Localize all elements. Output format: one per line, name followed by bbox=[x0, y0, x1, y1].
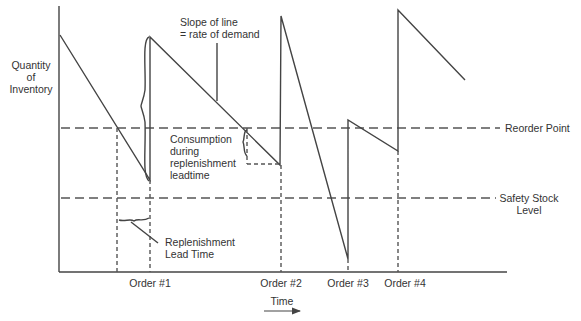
lead-time-annotation-line-1: Replenishment bbox=[165, 236, 235, 248]
order-4-label: Order #4 bbox=[384, 277, 426, 289]
y-axis-label-line-1: Quantity bbox=[11, 59, 51, 71]
lead-time-brace bbox=[119, 218, 149, 221]
consumption-annotation-line-4: leadtime bbox=[170, 169, 210, 181]
x-axis-label: Time bbox=[271, 295, 294, 307]
safety-stock-label-line-1: Safety Stock bbox=[500, 192, 560, 204]
slope-annotation-line-1: Slope of line bbox=[180, 16, 238, 28]
lead-time-pointer bbox=[131, 222, 158, 243]
consumption-annotation-line-2: during bbox=[170, 145, 199, 157]
order-2-label: Order #2 bbox=[260, 277, 302, 289]
inventory-diagram: Quantity of Inventory Slope of line = ra… bbox=[0, 0, 581, 321]
consumption-annotation-line-3: replenishment bbox=[170, 157, 236, 169]
y-axis-label-line-3: Inventory bbox=[9, 83, 53, 95]
order-quantity-brace bbox=[141, 37, 149, 181]
slope-annotation-line-2: = rate of demand bbox=[180, 28, 260, 40]
consumption-annotation-line-1: Consumption bbox=[170, 133, 232, 145]
inventory-level-line bbox=[60, 10, 465, 259]
order-1-label: Order #1 bbox=[129, 277, 171, 289]
reorder-point-label: Reorder Point bbox=[505, 122, 570, 134]
order-3-label: Order #3 bbox=[327, 277, 369, 289]
safety-stock-label-line-2: Level bbox=[516, 204, 541, 216]
y-axis-label-line-2: of bbox=[27, 71, 36, 83]
lead-time-annotation-line-2: Lead Time bbox=[165, 248, 214, 260]
